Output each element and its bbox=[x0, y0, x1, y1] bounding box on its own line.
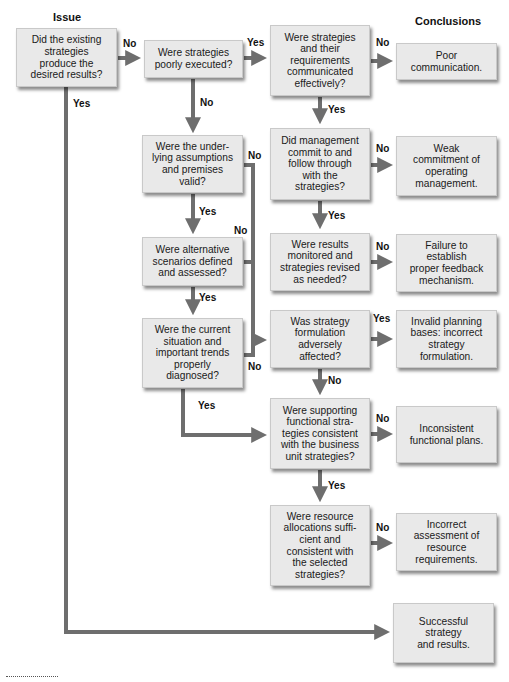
conclusion-resource-assessment: Incorrect assessment of resource require… bbox=[396, 513, 497, 571]
node-management-commit: Did management commit to and follow thro… bbox=[270, 128, 370, 200]
label-situation-yes: Yes bbox=[198, 400, 215, 411]
conclusion-feedback-failure: Failure to establish proper feedback mec… bbox=[396, 234, 497, 292]
label-resources-no: No bbox=[376, 522, 389, 533]
label-alternatives-yes: Yes bbox=[199, 292, 216, 303]
issue-header: Issue bbox=[53, 11, 81, 23]
label-alternatives-no: No bbox=[234, 225, 247, 236]
node-results-monitored: Were results monitored and strategies re… bbox=[270, 233, 370, 291]
label-assumptions-yes: Yes bbox=[199, 206, 216, 217]
label-communicated-yes: Yes bbox=[328, 104, 345, 115]
label-poorly-no: No bbox=[200, 97, 213, 108]
label-functional-no: No bbox=[376, 413, 389, 424]
conclusion-invalid-planning: Invalid planning bases: incorrect strate… bbox=[396, 310, 497, 368]
conclusion-weak-commitment: Weak commitment of operating management. bbox=[396, 136, 497, 196]
node-strategy-formulation: Was strategy formulation adversely affec… bbox=[270, 310, 370, 368]
label-formulation-no: No bbox=[328, 375, 341, 386]
label-management-no: No bbox=[376, 143, 389, 154]
label-monitored-no: No bbox=[376, 241, 389, 252]
node-existing-strategies: Did the existing strategies produce the … bbox=[16, 28, 117, 87]
label-assumptions-no: No bbox=[248, 150, 261, 161]
node-current-situation: Were the current situation and important… bbox=[142, 318, 243, 388]
conclusion-success: Successful strategy and results. bbox=[393, 603, 494, 663]
conclusion-poor-communication: Poor communication. bbox=[396, 43, 497, 80]
label-communicated-no: No bbox=[376, 37, 389, 48]
label-poorly-yes: Yes bbox=[247, 37, 264, 48]
label-formulation-yes: Yes bbox=[373, 313, 390, 324]
dotted-rule bbox=[6, 676, 58, 677]
label-management-yes: Yes bbox=[328, 210, 345, 221]
label-functional-yes: Yes bbox=[328, 480, 345, 491]
label-existing-no: No bbox=[123, 38, 136, 49]
node-functional-strategies: Were supporting functional stra- tegies … bbox=[270, 398, 370, 469]
label-situation-no: No bbox=[248, 361, 261, 372]
node-assumptions: Were the under- lying assumptions and pr… bbox=[142, 135, 243, 193]
label-existing-yes: Yes bbox=[73, 98, 90, 109]
node-communicated: Were strategies and their requirements c… bbox=[270, 25, 370, 96]
conclusions-header: Conclusions bbox=[415, 15, 481, 27]
node-resource-allocations: Were resource allocations suffi- cient a… bbox=[270, 505, 370, 586]
node-alternative-scenarios: Were alternative scenarios defined and a… bbox=[142, 237, 243, 286]
node-poorly-executed: Were strategies poorly executed? bbox=[144, 40, 243, 78]
conclusion-inconsistent-plans: Inconsistent functional plans. bbox=[396, 406, 497, 463]
